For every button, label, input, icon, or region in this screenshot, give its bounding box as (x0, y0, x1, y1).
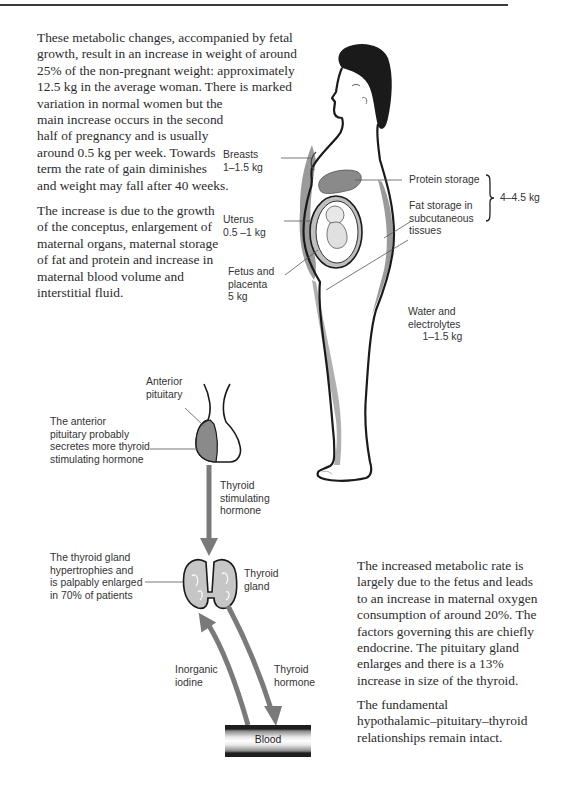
label-fat-storage: Fat storage in subcutaneous tissues (409, 200, 474, 238)
text-line: endocrine. The pituitary gland (357, 640, 568, 656)
text-line: The fundamental (357, 697, 568, 713)
metabolic-paragraph-1: The increased metabolic rate is largely … (357, 558, 568, 689)
metabolic-paragraph-2: The fundamental hypothalamic–pituitary–t… (357, 697, 568, 746)
toe-lines (322, 471, 332, 474)
tsh-arrow-head (200, 538, 218, 556)
label-water-electrolytes: Water and electrolytes 1–1.5 kg (408, 306, 462, 344)
label-tsh: Thyroid stimulating hormone (220, 480, 270, 518)
text-line: largely due to the fetus and leads (357, 574, 568, 590)
text-line: enlarges and there is a 13% (357, 656, 568, 672)
text-line: to an increase in maternal oxygen (357, 591, 568, 607)
thyroid-hormone-arrow-head (264, 706, 282, 726)
text-line: The increased metabolic rate is (357, 558, 568, 574)
text-line: factors governing this are chiefly (357, 624, 568, 640)
label-thyroid-gland: Thyroid gland (244, 568, 279, 593)
thyroid-outline (184, 560, 237, 609)
label-fetus-placenta: Fetus and placenta 5 kg (228, 266, 274, 304)
thyroid-hormone-arrow-shaft (228, 606, 272, 712)
fetus-head (326, 206, 344, 224)
label-thyroid-note: The thyroid gland hypertrophies and is p… (50, 552, 142, 602)
thyroid-gland-illustration (184, 560, 237, 609)
leader-lines-thyroid (145, 408, 204, 582)
protein-storage-shape (319, 170, 362, 193)
label-uterus: Uterus 0.5 –1 kg (223, 214, 266, 239)
label-protein-fat-total: 4–4.5 kg (500, 192, 540, 205)
eye (352, 85, 360, 87)
body-outline (303, 68, 394, 481)
label-pituitary-note: The anterior pituitary probably secretes… (50, 416, 150, 466)
label-anterior-pituitary: Anterior pituitary (146, 376, 182, 401)
ear (362, 97, 367, 104)
iodine-arrow-head (199, 611, 218, 633)
text-line: relationships remain intact. (357, 730, 568, 746)
pituitary-illustration (196, 384, 241, 462)
label-thyroid-hormone: Thyroid hormone (274, 664, 315, 689)
brace-icon (486, 175, 494, 221)
text-line: hypothalamic–pituitary–thyroid (357, 713, 568, 729)
text-line: increase in size of the thyroid. (357, 673, 568, 689)
text-line: consumption of around 20%. The (357, 607, 568, 623)
label-breasts: Breasts 1–1.5 kg (223, 149, 263, 174)
label-protein-storage: Protein storage (409, 174, 479, 187)
pregnant-woman-illustration (300, 44, 394, 481)
label-inorganic-iodine: Inorganic iodine (175, 664, 218, 689)
label-blood: Blood (225, 734, 311, 745)
hair (338, 44, 391, 129)
blood-vessel-bar: Blood (225, 725, 311, 757)
